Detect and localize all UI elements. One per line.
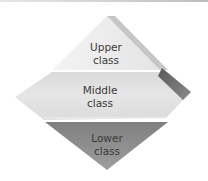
middle-class-layer: Middle class — [15, 68, 191, 120]
middle-class-label-line1: Middle — [83, 84, 118, 96]
class-diamond-diagram: Upper class Middle class Lower class — [0, 0, 208, 181]
lower-class-layer: Lower class — [45, 122, 168, 170]
upper-class-label-line1: Upper — [90, 41, 122, 53]
lower-class-label-line1: Lower — [91, 132, 123, 144]
upper-class-label-line2: class — [93, 54, 119, 66]
upper-class-layer: Upper class — [52, 16, 168, 70]
middle-class-label-line2: class — [87, 97, 113, 109]
lower-class-label-line2: class — [94, 145, 120, 157]
